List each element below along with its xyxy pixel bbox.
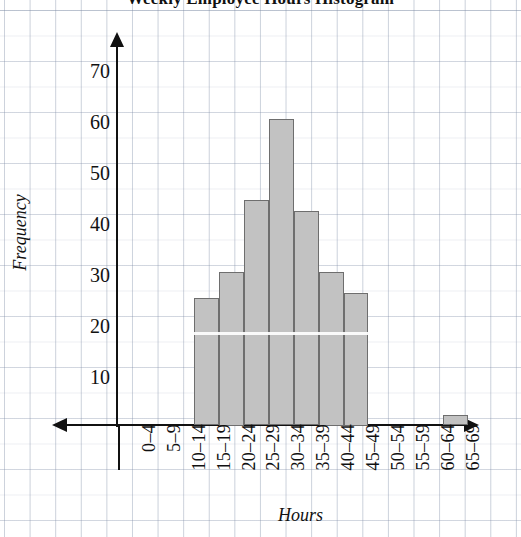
x-tick-30-34: 30–34 [288,424,309,504]
bar-30-34 [269,119,294,426]
histogram-figure: Weekly Employee Hours Histogram 70 60 50… [0,0,521,537]
x-tick-40-44: 40–44 [338,424,359,504]
x-tick-45-49: 45–49 [363,424,384,504]
x-tick-15-19: 15–19 [214,424,235,504]
x-tick-25-29: 25–29 [263,424,284,504]
x-tick-35-39: 35–39 [313,424,334,504]
x-tick-5-9: 5–9 [164,424,185,504]
bar-45-49 [344,293,369,426]
x-tick-10-14: 10–14 [189,424,210,504]
x-tick-20-24: 20–24 [239,424,260,504]
plot-area: 70 60 50 40 30 20 10 0–45–910–1415–1920–… [0,0,521,537]
scan-artifact-white [186,332,385,335]
bar-40-44 [319,272,344,426]
bar-20-24 [219,272,244,426]
y-axis-title: Frequency [10,153,31,313]
bar-15-19 [194,298,219,426]
x-tick-65-69: 65–69 [463,424,484,504]
x-tick-60-64: 60–64 [438,424,459,504]
x-tick-55-59: 55–59 [413,424,434,504]
x-axis-title: Hours [0,505,521,526]
x-tick-50-54: 50–54 [388,424,409,504]
bar-25-29 [244,200,269,425]
bar-35-39 [294,211,319,426]
x-tick-0-4: 0–4 [139,424,160,504]
